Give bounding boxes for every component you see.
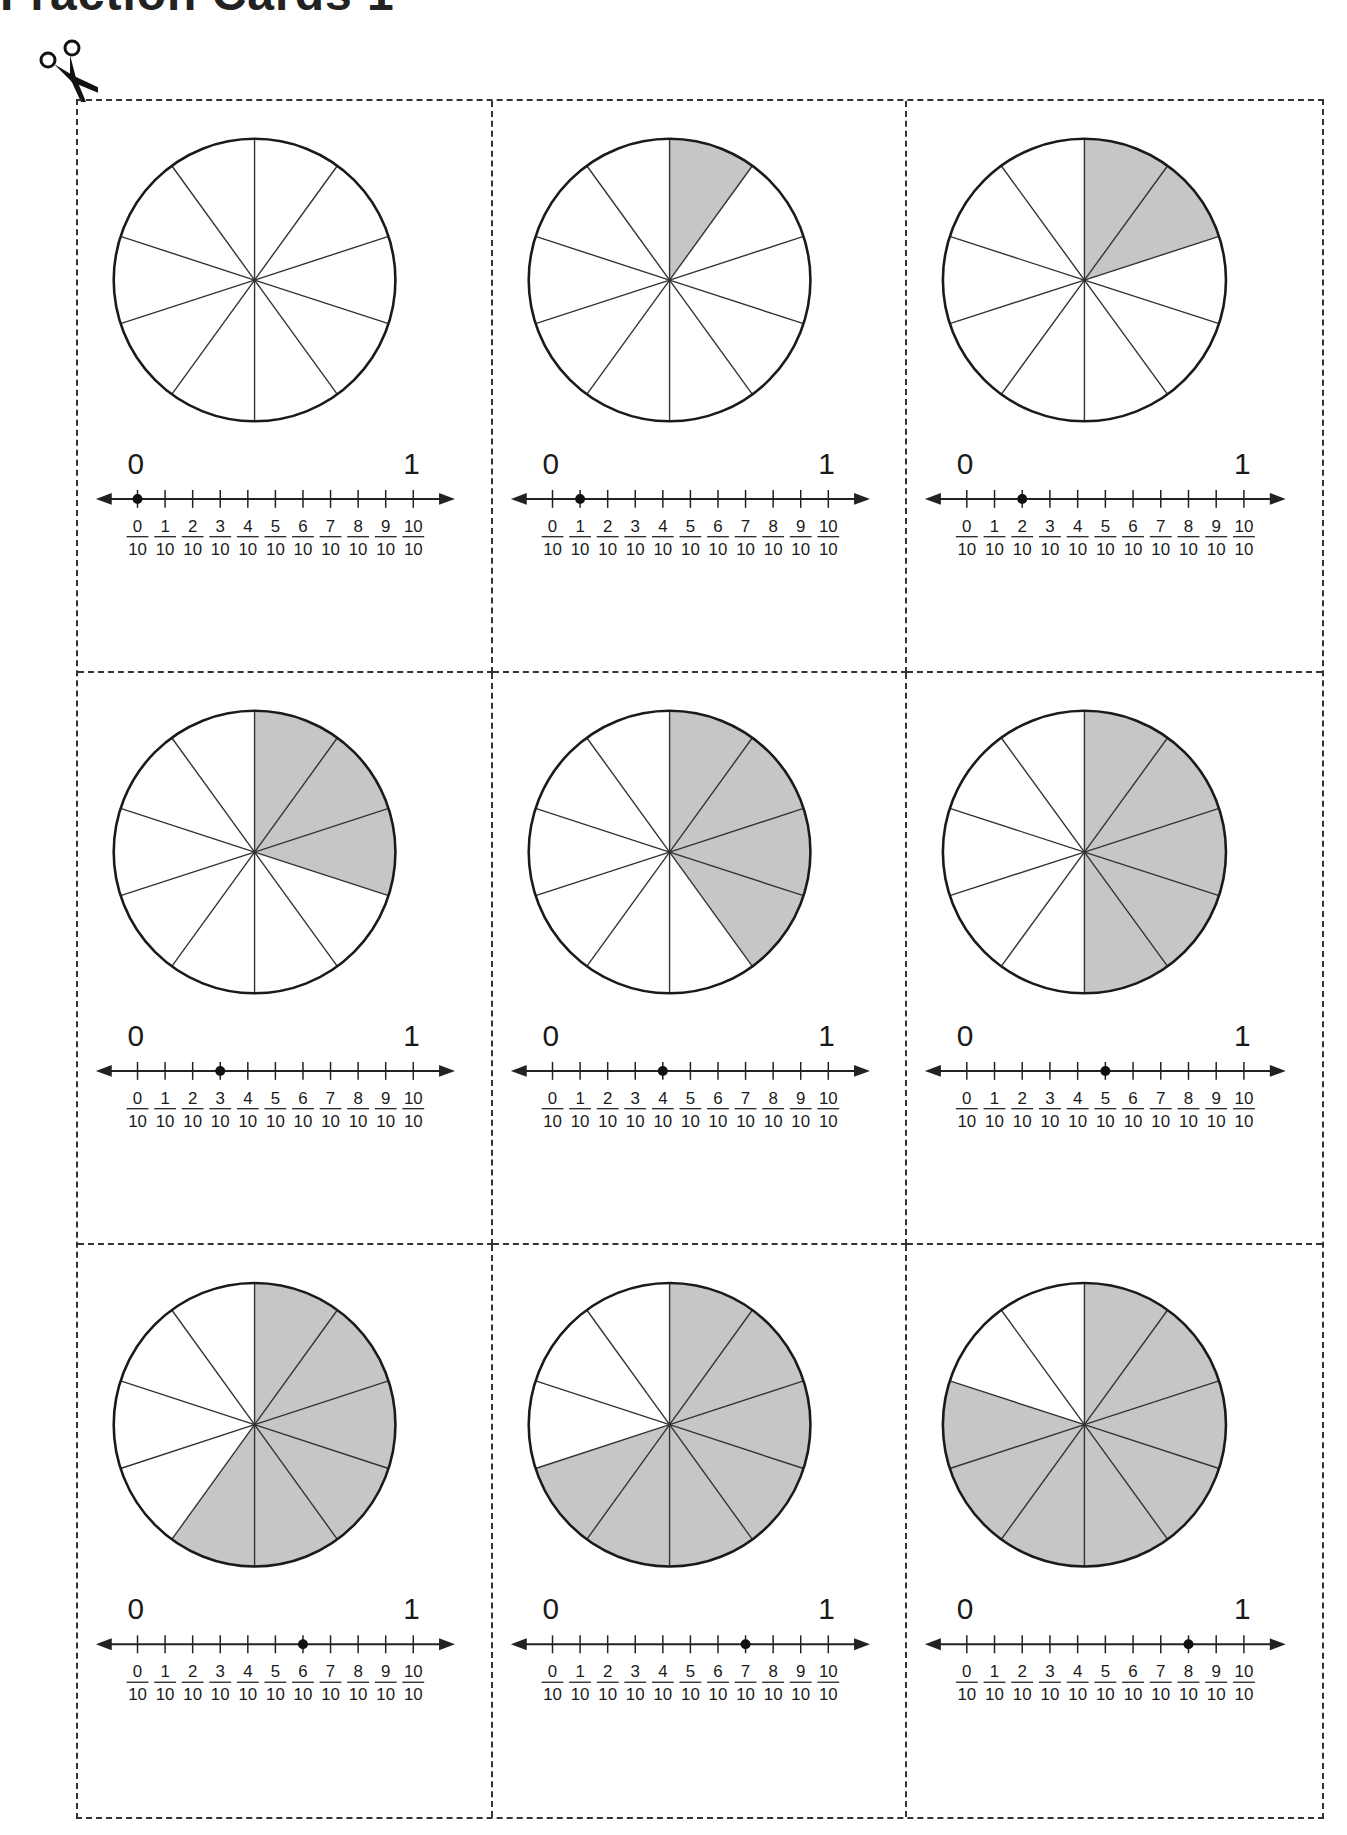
fraction-numerator: 0 — [547, 1662, 556, 1681]
number-line-end-label: 1 — [403, 1019, 420, 1052]
fraction-numerator: 8 — [768, 517, 777, 536]
fraction-numerator: 1 — [160, 517, 169, 536]
fraction-numerator: 2 — [1018, 1662, 1027, 1681]
fraction-numerator: 2 — [603, 517, 612, 536]
fraction-denominator: 10 — [266, 540, 285, 559]
fraction-numerator: 4 — [243, 1089, 252, 1108]
fraction-denominator: 10 — [626, 1685, 645, 1704]
shaded-wedge — [172, 1425, 255, 1567]
fraction-numerator: 3 — [630, 517, 639, 536]
number-line: 010101102103104105106107108109101010 — [925, 1592, 1286, 1704]
fraction-denominator: 10 — [211, 1112, 230, 1131]
fraction-denominator: 10 — [598, 540, 617, 559]
fraction-numerator: 8 — [768, 1089, 777, 1108]
fraction-denominator: 10 — [1013, 1685, 1032, 1704]
fraction-denominator: 10 — [376, 1112, 395, 1131]
fraction-numerator: 0 — [133, 1662, 142, 1681]
number-line-point — [298, 1639, 308, 1649]
fraction-circle — [528, 139, 810, 422]
number-line: 010101102103104105106107108109101010 — [96, 1592, 455, 1704]
number-line: 010101102103104105106107108109101010 — [925, 447, 1286, 559]
number-line-start-label: 0 — [542, 1019, 559, 1052]
fraction-numerator: 0 — [133, 517, 142, 536]
fraction-numerator: 4 — [658, 517, 667, 536]
number-line-end-label: 1 — [1234, 447, 1251, 480]
arrow-left-icon — [96, 1065, 112, 1077]
fraction-numerator: 8 — [353, 517, 362, 536]
fraction-numerator: 1 — [160, 1089, 169, 1108]
fraction-denominator: 10 — [1013, 1112, 1032, 1131]
fraction-denominator: 10 — [1235, 1685, 1254, 1704]
fraction-denominator: 10 — [349, 540, 368, 559]
fraction-numerator: 10 — [404, 1089, 423, 1108]
fraction-numerator: 3 — [1046, 1662, 1055, 1681]
number-line-end-label: 1 — [403, 1592, 420, 1625]
fraction-numerator: 6 — [1129, 1662, 1138, 1681]
number-line-end-label: 1 — [403, 447, 420, 480]
fraction-numerator: 9 — [1212, 1662, 1221, 1681]
scissors-icon — [18, 36, 98, 106]
fraction-numerator: 1 — [990, 517, 999, 536]
fraction-denominator: 10 — [156, 540, 175, 559]
fraction-numerator: 5 — [1101, 1089, 1110, 1108]
fraction-denominator: 10 — [543, 1685, 562, 1704]
fraction-numerator: 6 — [1129, 1089, 1138, 1108]
fraction-numerator: 9 — [1212, 517, 1221, 536]
fraction-numerator: 3 — [1046, 517, 1055, 536]
number-line-point — [575, 494, 585, 504]
fraction-denominator: 10 — [598, 1685, 617, 1704]
fraction-denominator: 10 — [1207, 1685, 1226, 1704]
arrow-right-icon — [439, 1638, 455, 1650]
fraction-denominator: 10 — [183, 1685, 202, 1704]
fraction-numerator: 10 — [1235, 1662, 1254, 1681]
fraction-denominator: 10 — [791, 1112, 810, 1131]
fraction-denominator: 10 — [404, 1112, 423, 1131]
fraction-numerator: 1 — [990, 1089, 999, 1108]
fraction-numerator: 9 — [381, 1089, 390, 1108]
fraction-card-3: 010101102103104105106107108109101010 — [907, 101, 1322, 673]
fraction-denominator: 10 — [1179, 1112, 1198, 1131]
fraction-numerator: 8 — [1184, 517, 1193, 536]
fraction-numerator: 9 — [796, 1089, 805, 1108]
fraction-denominator: 10 — [1207, 540, 1226, 559]
fraction-numerator: 1 — [575, 1089, 584, 1108]
fraction-numerator: 8 — [353, 1662, 362, 1681]
shaded-wedge — [669, 139, 752, 280]
fraction-circle — [114, 139, 396, 422]
fraction-circle — [528, 1283, 810, 1567]
fraction-numerator: 6 — [713, 517, 722, 536]
fraction-denominator: 10 — [1207, 1112, 1226, 1131]
fraction-numerator: 5 — [685, 517, 694, 536]
fraction-numerator: 0 — [962, 517, 971, 536]
fraction-numerator: 6 — [713, 1662, 722, 1681]
fraction-circle — [528, 711, 810, 994]
fraction-numerator: 10 — [819, 517, 838, 536]
fraction-numerator: 2 — [1018, 517, 1027, 536]
arrow-left-icon — [511, 1638, 527, 1650]
fraction-denominator: 10 — [1235, 540, 1254, 559]
fraction-denominator: 10 — [708, 1112, 727, 1131]
fraction-numerator: 5 — [1101, 517, 1110, 536]
fraction-denominator: 10 — [1152, 1112, 1171, 1131]
fraction-card-grid: 0101011021031041051061071081091010100101… — [76, 99, 1324, 1819]
fraction-denominator: 10 — [156, 1685, 175, 1704]
fraction-numerator: 8 — [1184, 1089, 1193, 1108]
number-line: 010101102103104105106107108109101010 — [96, 447, 455, 559]
arrow-right-icon — [854, 1065, 870, 1077]
fraction-numerator: 9 — [796, 517, 805, 536]
fraction-denominator: 10 — [128, 1112, 147, 1131]
fraction-numerator: 0 — [547, 1089, 556, 1108]
fraction-denominator: 10 — [736, 1685, 755, 1704]
fraction-denominator: 10 — [183, 540, 202, 559]
fraction-numerator: 7 — [326, 1089, 335, 1108]
fraction-denominator: 10 — [404, 1685, 423, 1704]
fraction-denominator: 10 — [266, 1685, 285, 1704]
fraction-denominator: 10 — [376, 540, 395, 559]
number-line: 010101102103104105106107108109101010 — [511, 1592, 870, 1704]
fraction-numerator: 1 — [575, 1662, 584, 1681]
fraction-denominator: 10 — [681, 1112, 700, 1131]
number-line-point — [1101, 1066, 1111, 1076]
fraction-denominator: 10 — [1041, 1112, 1060, 1131]
fraction-denominator: 10 — [763, 1685, 782, 1704]
arrow-right-icon — [1270, 493, 1286, 505]
